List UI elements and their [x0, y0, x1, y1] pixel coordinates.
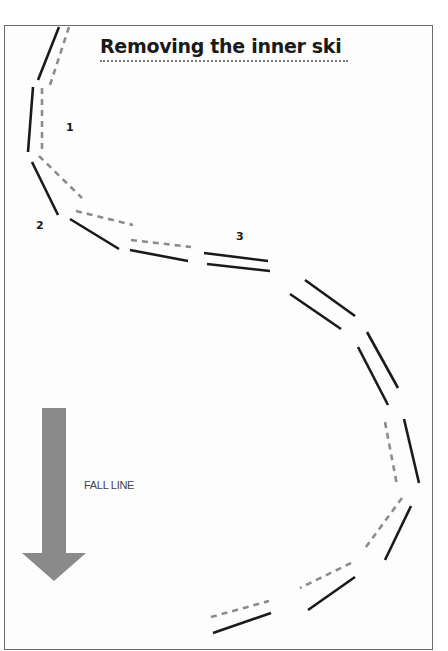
outer-ski-track — [38, 27, 59, 80]
inner-ski-track — [211, 601, 269, 617]
outer-ski-track — [204, 253, 268, 261]
outer-ski-track — [404, 419, 419, 483]
outer-ski-track — [32, 162, 58, 215]
inner-ski-track — [50, 27, 69, 85]
outer-ski-track — [358, 347, 388, 405]
diagram-title: Removing the inner ski — [100, 35, 348, 62]
fall-line-label: FALL LINE — [84, 479, 134, 491]
ski-track-segments — [28, 27, 419, 633]
outer-ski-track — [213, 613, 271, 633]
outer-ski-track — [130, 250, 188, 261]
inner-ski-track — [385, 422, 397, 485]
outer-ski-track — [308, 577, 355, 610]
outer-ski-track — [385, 506, 411, 560]
inner-ski-track — [366, 498, 402, 547]
step-label-1: 1 — [66, 121, 74, 134]
ski-track-diagram — [0, 0, 448, 651]
fall-line-arrow-icon — [22, 408, 86, 581]
step-label-2: 2 — [36, 219, 44, 232]
inner-ski-track — [76, 211, 133, 225]
step-label-3: 3 — [236, 230, 244, 243]
outer-ski-track — [207, 264, 270, 271]
inner-ski-track — [131, 240, 191, 247]
outer-ski-track — [367, 332, 398, 388]
outer-ski-track — [70, 219, 119, 249]
outer-ski-track — [28, 87, 33, 152]
